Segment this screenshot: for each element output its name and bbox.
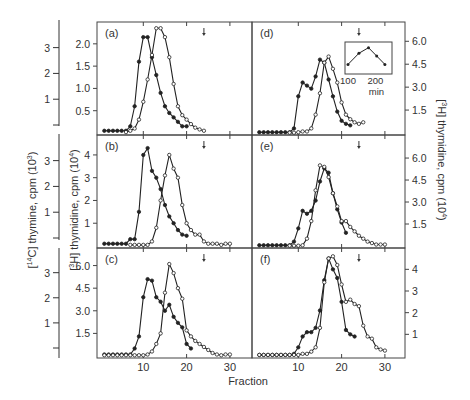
data-point [305,352,308,355]
data-point [349,225,352,228]
y-tick-label: 6.0 [412,35,427,47]
data-point [375,243,378,246]
outer-tick-label: 3 [44,42,50,54]
data-point [301,81,304,84]
data-point [146,353,149,356]
data-point [353,302,356,305]
x-tick-label: 30 [224,361,236,373]
data-point [176,228,179,231]
series-open-line [259,256,385,355]
panel-e: (e)1.53.04.56.0 [252,135,427,248]
data-point [146,35,149,38]
data-point [133,347,136,350]
data-point [142,243,145,246]
x-axis-label: Fraction [228,375,268,387]
data-point [103,242,106,245]
data-point [284,353,287,356]
data-point [111,129,114,132]
data-point [133,354,136,357]
data-point [189,335,192,338]
data-point [159,199,162,202]
data-point [366,240,369,243]
data-point [142,354,145,357]
data-point [146,146,149,149]
data-point [262,353,265,356]
y-tick-label: 4.5 [412,174,427,186]
outer-tick-label: 2 [44,292,50,304]
y-tick-label: 3.0 [75,305,90,317]
data-point [288,353,291,356]
data-point [301,335,304,338]
series-closed-line [259,168,346,245]
data-point [185,329,188,332]
data-point [142,296,145,299]
data-point [292,353,295,356]
data-point [344,219,347,222]
right-axis-label: [3H] thymidine, cpm (104) [436,99,448,221]
data-point [129,129,132,132]
y-tick-label: 1.5 [412,218,427,230]
data-point [155,226,158,229]
y-tick-label: 3.0 [412,196,427,208]
data-point [207,348,210,351]
data-point [331,268,334,271]
data-point [155,176,158,179]
left-outer-axis-label: [14C] thymine, cpm (103) [26,152,38,269]
data-point [185,234,188,237]
data-point [159,332,162,335]
data-point [150,169,153,172]
data-point [181,233,184,236]
outer-tick-label: 3 [44,267,50,279]
data-point [129,125,132,128]
data-point [305,330,308,333]
y-tick-label: 1.5 [75,327,90,339]
data-point [137,335,140,338]
x-tick-label: 10 [137,361,149,373]
data-point [288,131,291,134]
data-point [129,354,132,357]
inset-x-tick: 100 [340,75,356,86]
data-point [120,129,123,132]
data-point [327,78,330,81]
data-point [310,330,313,333]
data-point [185,125,188,128]
data-point [379,243,382,246]
data-point [314,326,317,329]
inset-x-label: min [369,86,384,97]
data-point [189,228,192,231]
data-point [150,350,153,353]
data-point [202,240,205,243]
outer-tick-label: 3 [44,155,50,167]
data-point [340,300,343,303]
inset-chart: 100200min [340,42,392,97]
data-point [266,353,269,356]
data-point [107,129,110,132]
data-point [137,243,140,246]
y-tick-label: 1.5 [412,104,427,116]
data-point [305,84,308,87]
left-inner-axis-label: [3H] thymidine, cpm (104) [68,149,80,271]
data-point [176,105,179,108]
data-point [224,242,227,245]
series-closed-line [259,259,354,355]
panel-a: (a)0.51.01.52.0 [75,22,252,135]
data-point [271,244,274,247]
data-point [314,189,317,192]
data-point [288,244,291,247]
data-point [211,351,214,354]
data-point [362,237,365,240]
data-point [168,303,171,306]
data-point [344,113,347,116]
data-point [189,122,192,125]
data-point [181,297,184,300]
data-point [155,73,158,76]
data-point [107,354,110,357]
y-tick-label: 3 [412,285,418,297]
data-point [124,242,127,245]
data-point [111,242,114,245]
data-point [120,242,123,245]
data-point [163,291,166,294]
data-point [305,130,308,133]
data-point [168,153,171,156]
data-point [172,167,175,170]
